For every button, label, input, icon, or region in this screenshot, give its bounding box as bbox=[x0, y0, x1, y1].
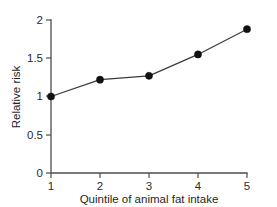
x-tick-label-1: 1 bbox=[48, 180, 54, 192]
y-tick-label-1: 1 bbox=[37, 90, 43, 102]
data-point-marker bbox=[96, 76, 103, 83]
x-tick-label-4: 4 bbox=[195, 180, 202, 192]
data-point-marker bbox=[47, 93, 54, 100]
data-series-markers bbox=[47, 26, 250, 101]
y-axis-title: Relative risk bbox=[10, 65, 22, 128]
line-chart-canvas: 2 1.5 1 0.5 0 1 2 3 4 5 Quintile of anim… bbox=[0, 0, 277, 207]
x-axis-title: Quintile of animal fat intake bbox=[80, 193, 219, 205]
chart-figure: 2 1.5 1 0.5 0 1 2 3 4 5 Quintile of anim… bbox=[0, 0, 277, 207]
y-tick-label-0: 0 bbox=[37, 167, 43, 179]
x-axis-tick-labels: 1 2 3 4 5 bbox=[48, 180, 250, 192]
x-tick-label-2: 2 bbox=[97, 180, 103, 192]
data-point-marker bbox=[145, 72, 152, 79]
y-tick-label-0-5: 0.5 bbox=[27, 129, 43, 141]
chart-axes bbox=[46, 20, 247, 178]
y-tick-label-1-5: 1.5 bbox=[27, 52, 43, 64]
y-tick-label-2: 2 bbox=[37, 14, 43, 26]
data-point-marker bbox=[243, 26, 250, 33]
axis-lines bbox=[51, 20, 247, 173]
x-tick-label-3: 3 bbox=[146, 180, 152, 192]
data-series-line bbox=[51, 29, 247, 96]
data-point-marker bbox=[194, 51, 201, 58]
x-tick-label-5: 5 bbox=[244, 180, 250, 192]
y-axis-tick-labels: 2 1.5 1 0.5 0 bbox=[27, 14, 43, 179]
